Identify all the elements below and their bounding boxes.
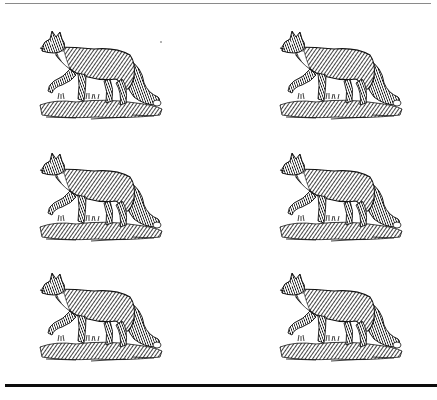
top-rule xyxy=(5,3,431,4)
fox-illustration-r1c2 xyxy=(276,27,404,121)
fox-woodcut-icon xyxy=(276,27,404,121)
fox-illustration-r3c2 xyxy=(276,269,404,363)
fox-woodcut-icon xyxy=(276,269,404,363)
fox-illustration-r1c1 xyxy=(36,27,164,121)
fox-illustration-r2c2 xyxy=(276,149,404,243)
fox-woodcut-icon xyxy=(36,27,164,121)
fox-woodcut-icon xyxy=(36,149,164,243)
paper-speck xyxy=(160,41,162,43)
fox-illustration-r3c1 xyxy=(36,269,164,363)
fox-woodcut-icon xyxy=(276,149,404,243)
bottom-rule xyxy=(5,384,437,387)
fox-illustration-r2c1 xyxy=(36,149,164,243)
fox-woodcut-icon xyxy=(36,269,164,363)
